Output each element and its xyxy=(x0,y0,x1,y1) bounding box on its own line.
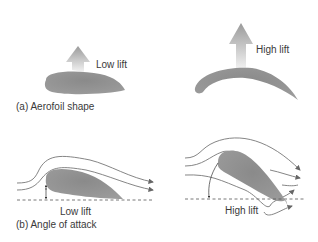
low-lift-label-b: Low lift xyxy=(60,206,91,217)
low-lift-label-a: Low lift xyxy=(96,59,127,70)
caption-angle-of-attack: (b) Angle of attack xyxy=(16,219,97,230)
flat-aerofoil-shape xyxy=(45,72,125,95)
caption-aerofoil-shape: (a) Aerofoil shape xyxy=(16,101,94,112)
high-lift-label-a: High lift xyxy=(256,44,289,55)
curved-aerofoil-shape xyxy=(195,68,298,100)
low-lift-arrow-icon xyxy=(66,46,90,72)
high-lift-label-b: High lift xyxy=(225,205,258,216)
high-lift-aerofoil-shape xyxy=(218,150,288,205)
high-lift-arrow-icon xyxy=(229,23,253,69)
low-lift-aerofoil-shape xyxy=(46,169,123,199)
aerofoil-diagram xyxy=(0,0,318,242)
high-lift-angle-indicator xyxy=(209,163,218,197)
